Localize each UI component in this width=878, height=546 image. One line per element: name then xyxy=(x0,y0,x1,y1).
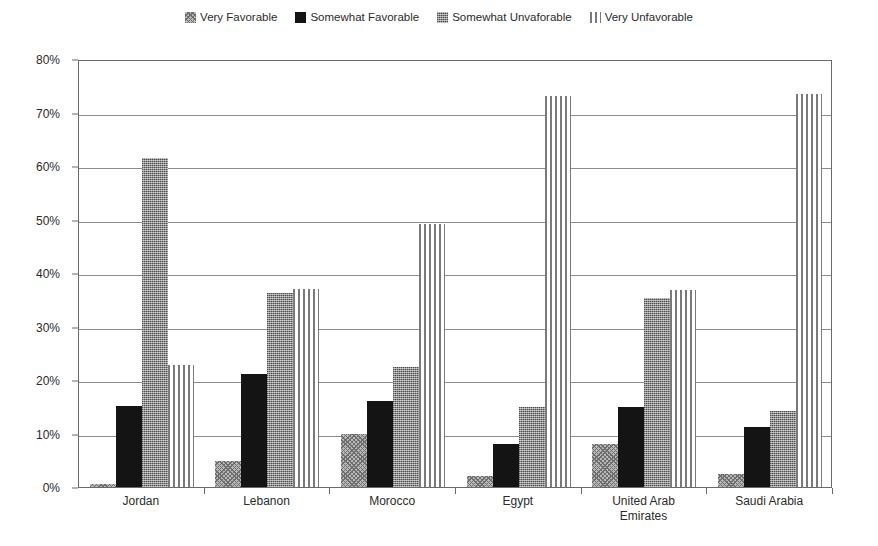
x-axis-tick-label: United Arab Emirates xyxy=(589,494,699,524)
bar[interactable] xyxy=(367,401,393,487)
bar[interactable] xyxy=(670,290,696,487)
bar[interactable] xyxy=(796,94,822,487)
chart-legend: Very FavorableSomewhat FavorableSomewhat… xyxy=(0,12,878,24)
legend-item-label: Somewhat Unvaforable xyxy=(452,12,572,24)
bar[interactable] xyxy=(770,411,796,488)
bar[interactable] xyxy=(241,374,267,487)
legend-swatch-vstripes-icon xyxy=(590,12,601,23)
bar[interactable] xyxy=(267,293,293,487)
x-axis-tick-label: Egypt xyxy=(463,494,573,509)
legend-item[interactable]: Somewhat Unvaforable xyxy=(437,12,572,24)
bar[interactable] xyxy=(168,365,194,488)
x-axis-tick-label: Jordan xyxy=(86,494,196,509)
bar-group xyxy=(205,61,331,487)
plot-area xyxy=(78,60,832,488)
legend-swatch-solid-dark-icon xyxy=(295,12,306,23)
bar[interactable] xyxy=(142,158,168,487)
x-axis-tick-label: Morocco xyxy=(337,494,447,509)
bar-group xyxy=(456,61,582,487)
bar-group xyxy=(707,61,833,487)
legend-swatch-crosshatch-icon xyxy=(185,12,196,23)
bar[interactable] xyxy=(644,298,670,487)
bar[interactable] xyxy=(545,96,571,487)
legend-item-label: Somewhat Favorable xyxy=(310,12,419,24)
bar[interactable] xyxy=(592,444,618,487)
y-axis-tick-marks xyxy=(0,60,80,488)
bar[interactable] xyxy=(467,476,493,487)
legend-swatch-dots-icon xyxy=(437,12,448,23)
bar[interactable] xyxy=(116,406,142,487)
bar[interactable] xyxy=(744,427,770,487)
legend-item[interactable]: Very Favorable xyxy=(185,12,277,24)
bar[interactable] xyxy=(493,444,519,487)
bar[interactable] xyxy=(90,484,116,487)
bar[interactable] xyxy=(519,407,545,487)
bar[interactable] xyxy=(618,407,644,487)
bar[interactable] xyxy=(293,289,319,487)
x-axis-tick-label: Saudi Arabia xyxy=(714,494,824,509)
legend-item[interactable]: Somewhat Favorable xyxy=(295,12,419,24)
legend-item-label: Very Unfavorable xyxy=(605,12,693,24)
x-axis: JordanLebanonMoroccoEgyptUnited Arab Emi… xyxy=(78,494,832,544)
legend-item-label: Very Favorable xyxy=(200,12,277,24)
chart-container: Very FavorableSomewhat FavorableSomewhat… xyxy=(0,0,878,546)
x-axis-tick-label: Lebanon xyxy=(212,494,322,509)
bar-group xyxy=(330,61,456,487)
bar[interactable] xyxy=(718,474,744,487)
bars-layer xyxy=(79,61,831,487)
bar[interactable] xyxy=(393,367,419,487)
x-axis-tick-mark xyxy=(832,488,833,494)
bar[interactable] xyxy=(419,224,445,487)
bar[interactable] xyxy=(215,461,241,487)
bar[interactable] xyxy=(341,434,367,488)
bar-group xyxy=(582,61,708,487)
legend-item[interactable]: Very Unfavorable xyxy=(590,12,693,24)
bar-group xyxy=(79,61,205,487)
